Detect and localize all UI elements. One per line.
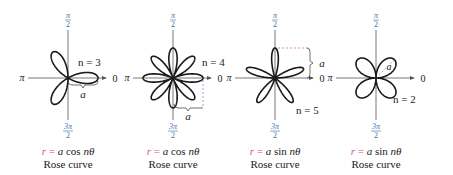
axis-label-pi-over-2-num: π <box>374 11 379 20</box>
n-label: n = 2 <box>393 93 416 105</box>
axis-label-pi-over-2-num: π <box>66 11 71 20</box>
caption-cos3: r = a cos nθRose curve <box>13 145 123 171</box>
equation-equals: = <box>355 145 367 157</box>
equation-trig: sin <box>274 145 290 157</box>
equation-arg: nθ <box>83 145 94 157</box>
equation: r = a cos nθ <box>118 145 228 158</box>
a-label: a <box>387 61 392 72</box>
axis-label-zero: 0 <box>113 73 118 84</box>
rose-panel-sin2: π0π23π2n = 2a <box>327 11 425 140</box>
equation-equals: = <box>151 145 163 157</box>
axis-label-pi-over-2-den: 2 <box>374 20 378 29</box>
equation-equals: = <box>46 145 58 157</box>
axis-label-zero: 0 <box>320 73 325 84</box>
axis-label-zero: 0 <box>218 73 223 84</box>
caption-label: Rose curve <box>13 158 123 171</box>
equation-a: a <box>58 145 66 157</box>
caption-label: Rose curve <box>220 158 330 171</box>
axis-label-pi: π <box>19 72 25 83</box>
axis-label-pi: π <box>327 72 333 83</box>
n-label: n = 3 <box>78 56 101 68</box>
axis-label-3pi-over-2-den: 2 <box>374 131 378 140</box>
rose-panel-sin5: π0π23π2n = 5a <box>226 11 325 140</box>
rose-panel-cos3: π0π23π2n = 3a <box>19 11 117 140</box>
caption-sin5: r = a sin nθRose curve <box>220 145 330 171</box>
axis-label-pi-over-2-den: 2 <box>171 20 175 29</box>
caption-cos4: r = a cos nθRose curve <box>118 145 228 171</box>
equation-arg: nθ <box>289 145 300 157</box>
equation: r = a sin nθ <box>321 145 431 158</box>
axis-label-3pi-over-2-den: 2 <box>273 131 277 140</box>
a-label: a <box>319 57 325 69</box>
axis-label-3pi-over-2-den: 2 <box>66 131 70 140</box>
equation: r = a cos nθ <box>13 145 123 158</box>
equation: r = a sin nθ <box>220 145 330 158</box>
n-label: n = 4 <box>202 56 225 68</box>
caption-label: Rose curve <box>321 158 431 171</box>
equation-trig: sin <box>375 145 391 157</box>
axis-label-3pi-over-2-num: 3π <box>270 122 280 131</box>
axis-label-pi: π <box>124 72 130 83</box>
equation-equals: = <box>254 145 266 157</box>
axis-label-pi-over-2-den: 2 <box>66 20 70 29</box>
equation-arg: nθ <box>188 145 199 157</box>
axis-label-zero: 0 <box>421 73 426 84</box>
caption-label: Rose curve <box>118 158 228 171</box>
axis-label-3pi-over-2-num: 3π <box>168 122 178 131</box>
caption-sin2: r = a sin nθRose curve <box>321 145 431 171</box>
equation-a: a <box>163 145 171 157</box>
n-label: n = 5 <box>296 104 319 116</box>
axis-label-3pi-over-2-num: 3π <box>371 122 381 131</box>
equation-arg: nθ <box>390 145 401 157</box>
axis-label-pi-over-2-den: 2 <box>273 20 277 29</box>
rose-panel-cos4: π0π23π2n = 4a <box>124 11 225 140</box>
equation-a: a <box>266 145 274 157</box>
a-bracket <box>307 48 313 78</box>
axis-label-pi-over-2-num: π <box>273 11 278 20</box>
a-label: a <box>80 88 86 100</box>
a-label: a <box>185 110 191 122</box>
equation-trig: cos <box>66 145 83 157</box>
equation-trig: cos <box>171 145 188 157</box>
axis-label-3pi-over-2-den: 2 <box>171 131 175 140</box>
axis-label-pi-over-2-num: π <box>171 11 176 20</box>
axis-label-pi: π <box>226 72 232 83</box>
axis-label-3pi-over-2-num: 3π <box>63 122 73 131</box>
equation-a: a <box>367 145 375 157</box>
